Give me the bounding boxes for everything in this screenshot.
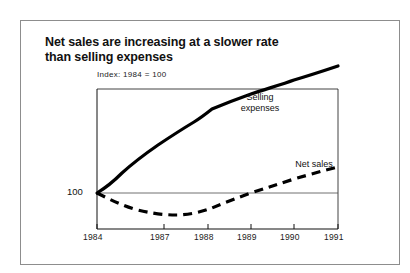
plot-area (21, 21, 401, 266)
figure-root: Net sales are increasing at a slower rat… (0, 0, 410, 273)
x-axis-ticks (97, 224, 338, 229)
x-axis-label-1989: 1989 (237, 232, 257, 242)
series-annotation-selling-expenses-line-1: Selling (246, 92, 273, 102)
corner-mark (378, 2, 404, 16)
x-axis-label-1990: 1990 (280, 232, 300, 242)
series-annotation-selling-expenses-line-2: expenses (241, 103, 280, 113)
series-line-selling-expenses (97, 66, 338, 193)
series-line-net-sales (97, 167, 338, 215)
series-annotation-selling-expenses: Selling expenses (226, 92, 294, 114)
series-annotation-net-sales: Net sales (284, 159, 344, 170)
chart-frame: Net sales are increasing at a slower rat… (20, 20, 400, 265)
y-axis-baseline-label: 100 (67, 186, 83, 197)
x-axis-label-1984: 1984 (83, 232, 103, 242)
x-axis-label-1987: 1987 (150, 232, 170, 242)
x-axis-label-1991: 1991 (324, 232, 344, 242)
x-axis-label-1988: 1988 (194, 232, 214, 242)
